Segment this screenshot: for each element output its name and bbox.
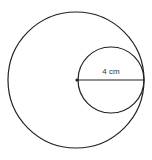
center-point (75, 78, 78, 81)
circle-diagram: 4 cm (0, 0, 152, 160)
diameter-label: 4 cm (102, 67, 120, 76)
